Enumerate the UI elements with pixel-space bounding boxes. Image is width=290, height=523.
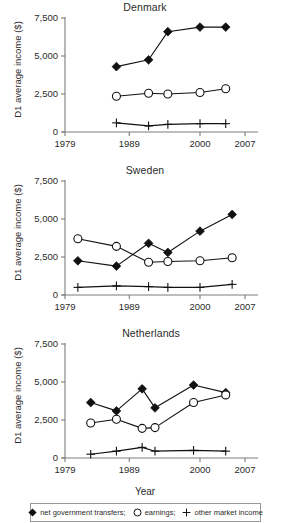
- filled-diamond-icon: [86, 398, 95, 407]
- plus-icon: [196, 119, 205, 128]
- y-tick-label: 5,000: [34, 376, 58, 387]
- x-tick-label: 2007: [234, 301, 255, 312]
- filled-diamond-icon: [112, 262, 121, 271]
- plus-icon: [112, 447, 121, 456]
- legend-item-earnings: earnings;: [133, 508, 176, 517]
- plus-icon: [196, 283, 205, 292]
- filled-diamond-icon: [144, 55, 153, 64]
- series-line-filled-diamond: [78, 214, 232, 266]
- x-tick-label: 2000: [189, 464, 210, 475]
- open-circle-icon: [222, 85, 230, 93]
- series-line-open-circle: [91, 395, 226, 428]
- x-tick-label: 2007: [234, 464, 255, 475]
- plus-icon: [182, 508, 191, 517]
- plus-icon: [221, 119, 230, 128]
- plus-icon: [144, 282, 153, 291]
- panel-netherlands: Netherlands D1 average income ($) 02,500…: [0, 326, 290, 484]
- filled-diamond-icon: [144, 239, 153, 248]
- y-tick-label: 5,000: [34, 213, 58, 224]
- plot-area-sweden: 02,5005,0007,5001979198920002007: [0, 163, 290, 321]
- legend-label-other-market-income: other market income: [194, 508, 262, 517]
- x-tick-label: 2007: [234, 138, 255, 149]
- y-tick-label: 2,500: [34, 414, 58, 425]
- open-circle-icon: [87, 419, 95, 427]
- y-tick-label: 7,500: [34, 12, 58, 23]
- filled-diamond-icon: [189, 381, 198, 390]
- y-tick-label: 2,500: [34, 88, 58, 99]
- plus-icon: [112, 119, 121, 128]
- legend-label-transfers: net government transfers;: [40, 508, 125, 517]
- open-circle-icon: [145, 89, 153, 97]
- plot-area-denmark: 02,5005,0007,5001979198920002007: [0, 0, 290, 158]
- filled-diamond-icon: [221, 23, 230, 32]
- plus-icon: [164, 120, 173, 129]
- x-tick-label: 2000: [189, 301, 210, 312]
- open-circle-icon: [112, 415, 120, 423]
- plus-icon: [164, 283, 173, 292]
- plus-icon: [189, 446, 198, 455]
- filled-diamond-icon: [163, 27, 172, 36]
- plus-icon: [228, 280, 237, 289]
- x-axis-label: Year: [0, 486, 290, 497]
- open-circle-icon: [190, 399, 198, 407]
- open-circle-icon: [151, 424, 159, 432]
- plus-icon: [74, 283, 83, 292]
- plus-icon: [151, 447, 160, 456]
- panel-denmark: Denmark D1 average income ($) 02,5005,00…: [0, 0, 290, 158]
- plus-icon: [86, 450, 95, 459]
- series-line-plus: [78, 284, 232, 287]
- filled-diamond-icon: [196, 227, 205, 236]
- y-tick-label: 0: [53, 126, 58, 137]
- legend-item-other-market-income: other market income: [182, 508, 262, 517]
- open-circle-icon: [164, 258, 172, 266]
- open-circle-icon: [112, 242, 120, 250]
- filled-diamond-icon: [228, 210, 237, 219]
- open-circle-icon: [222, 391, 230, 399]
- y-tick-label: 2,500: [34, 251, 58, 262]
- open-circle-icon: [74, 235, 82, 243]
- filled-diamond-icon: [196, 23, 205, 32]
- x-tick-label: 1989: [119, 464, 140, 475]
- y-tick-label: 7,500: [34, 338, 58, 349]
- open-circle-icon: [138, 424, 146, 432]
- plus-icon: [144, 122, 153, 131]
- figure-multi-panel-line-chart: Denmark D1 average income ($) 02,5005,00…: [0, 0, 290, 523]
- x-tick-label: 1979: [54, 138, 75, 149]
- plot-area-netherlands: 02,5005,0007,5001979198920002007: [0, 326, 290, 484]
- x-tick-label: 1989: [119, 301, 140, 312]
- open-circle-icon: [145, 258, 153, 266]
- x-tick-label: 1989: [119, 138, 140, 149]
- filled-diamond-icon: [151, 403, 160, 412]
- panel-sweden: Sweden D1 average income ($) 02,5005,000…: [0, 163, 290, 321]
- plus-icon: [221, 447, 230, 456]
- plus-icon: [112, 282, 121, 291]
- y-tick-label: 0: [53, 452, 58, 463]
- open-circle-icon: [112, 92, 120, 100]
- filled-diamond-icon: [163, 248, 172, 257]
- open-circle-icon: [133, 508, 142, 517]
- series-line-open-circle: [78, 239, 232, 263]
- legend: net government transfers; earnings; othe…: [30, 503, 261, 522]
- y-tick-label: 7,500: [34, 175, 58, 186]
- legend-item-transfers: net government transfers;: [28, 508, 125, 517]
- filled-diamond-icon: [112, 62, 121, 71]
- x-tick-label: 1979: [54, 464, 75, 475]
- open-circle-icon: [196, 88, 204, 96]
- legend-label-earnings: earnings;: [145, 508, 176, 517]
- open-circle-icon: [196, 257, 204, 265]
- open-circle-icon: [164, 90, 172, 98]
- x-tick-label: 1979: [54, 301, 75, 312]
- y-tick-label: 0: [53, 289, 58, 300]
- filled-diamond-icon: [73, 256, 82, 265]
- x-tick-label: 2000: [189, 138, 210, 149]
- y-tick-label: 5,000: [34, 50, 58, 61]
- plus-icon: [138, 443, 147, 452]
- open-circle-icon: [228, 254, 236, 262]
- filled-diamond-icon: [28, 508, 37, 517]
